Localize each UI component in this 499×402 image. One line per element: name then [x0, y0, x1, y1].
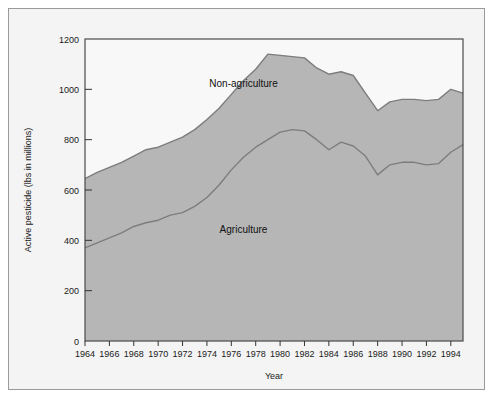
x-tick-label: 1988 — [368, 349, 388, 359]
y-tick-label: 0 — [74, 337, 79, 347]
x-tick-label: 1966 — [99, 349, 119, 359]
y-tick-label: 200 — [64, 286, 79, 296]
y-tick-label: 1200 — [59, 35, 79, 45]
x-axis-ticks: 1964196619681970197219741976197819801982… — [75, 341, 461, 359]
x-tick-label: 1970 — [148, 349, 168, 359]
x-tick-label: 1986 — [343, 349, 363, 359]
x-tick-label: 1974 — [197, 349, 217, 359]
x-tick-label: 1976 — [221, 349, 241, 359]
x-tick-label: 1978 — [246, 349, 266, 359]
y-axis-label: Active pesticide (lbs in millions) — [23, 128, 33, 253]
x-axis-label: Year — [265, 371, 283, 381]
x-tick-label: 1964 — [75, 349, 95, 359]
y-tick-label: 600 — [64, 186, 79, 196]
x-tick-label: 1982 — [294, 349, 314, 359]
pesticide-area-chart: 1964196619681970197219741976197819801982… — [9, 9, 484, 389]
series-label-agriculture: Agriculture — [220, 224, 268, 235]
x-tick-label: 1990 — [392, 349, 412, 359]
chart-figure: 1964196619681970197219741976197819801982… — [8, 8, 485, 390]
y-tick-label: 1000 — [59, 85, 79, 95]
series-label-non-agriculture: Non-agriculture — [209, 78, 278, 89]
x-tick-label: 1980 — [270, 349, 290, 359]
x-tick-label: 1992 — [416, 349, 436, 359]
x-tick-label: 1972 — [173, 349, 193, 359]
x-tick-label: 1968 — [124, 349, 144, 359]
y-tick-label: 400 — [64, 236, 79, 246]
y-tick-label: 800 — [64, 135, 79, 145]
x-tick-label: 1984 — [319, 349, 339, 359]
x-tick-label: 1994 — [441, 349, 461, 359]
